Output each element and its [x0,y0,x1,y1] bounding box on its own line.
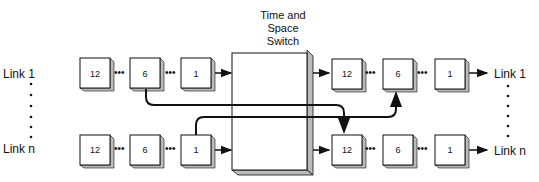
input-link-n-label: Link n [3,142,35,156]
ellipsis: ••• [417,67,428,78]
slot-box: 1 [435,135,469,168]
ellipsis: ••• [165,67,176,78]
ellipsis: ••• [114,143,125,154]
tsi-switch-diagram: Time and Space Switch Link 1 12 ••• 6 ••… [0,0,539,182]
slot-box: 6 [383,135,417,168]
svg-text:12: 12 [342,69,352,79]
slot-box: 6 [130,58,164,91]
ellipsis: ••• [365,143,376,154]
slot-box: 6 [383,59,417,92]
ellipsis: ••• [165,143,176,154]
svg-text:6: 6 [395,69,400,79]
svg-text:12: 12 [90,69,100,79]
svg-text:1: 1 [447,145,452,155]
output-link-n-slots: 12 ••• 6 ••• 1 [332,135,469,168]
slot-box: 1 [435,59,469,92]
link-dots-right [507,85,510,138]
switch-title-line-3: Switch [267,35,299,47]
output-link-1-label: Link 1 [494,67,526,81]
svg-text:6: 6 [142,145,147,155]
slot-box: 12 [80,135,114,168]
ellipsis: ••• [114,67,125,78]
link-dots-left [30,83,33,139]
input-link-1-slots: 12 ••• 6 ••• 1 [80,58,215,91]
slot-box: 12 [332,135,366,168]
svg-text:12: 12 [90,145,100,155]
svg-text:1: 1 [193,145,198,155]
output-link-1-slots: 12 ••• 6 ••• 1 [332,59,469,92]
switch-title-line-2: Space [267,22,298,34]
output-link-n-label: Link n [494,144,526,158]
slot-box: 12 [332,59,366,92]
svg-text:6: 6 [395,145,400,155]
input-link-n-slots: 12 ••• 6 ••• 1 [80,135,215,168]
svg-text:1: 1 [193,69,198,79]
slot-box: 1 [181,135,215,168]
svg-text:6: 6 [142,69,147,79]
slot-box: 6 [130,135,164,168]
ellipsis: ••• [365,67,376,78]
switch-title-line-1: Time and [260,9,305,21]
slot-box: 12 [80,58,114,91]
svg-text:1: 1 [447,69,452,79]
svg-text:12: 12 [342,145,352,155]
switch-block [232,50,313,175]
ellipsis: ••• [417,143,428,154]
input-link-1-label: Link 1 [3,67,35,81]
slot-box: 1 [181,58,215,91]
